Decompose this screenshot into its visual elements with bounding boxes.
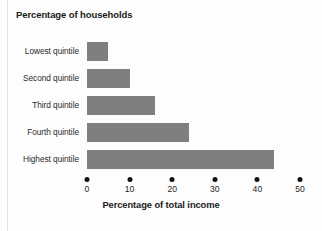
plot-area: Lowest quintileSecond quintileThird quin…: [0, 42, 322, 177]
bar-row: Second quintile: [0, 69, 322, 88]
x-axis-tick-label: 20: [160, 184, 184, 194]
x-axis-tick-label: 10: [118, 184, 142, 194]
x-axis-tick-dot: [170, 177, 175, 182]
bar-second-quintile: [87, 69, 130, 88]
bar-third-quintile: [87, 96, 155, 115]
x-axis-tick-labels: 01020304050: [0, 184, 322, 196]
bar-fourth-quintile: [87, 123, 189, 142]
x-axis-title: Percentage of total income: [0, 199, 322, 210]
x-axis-tick-label: 40: [245, 184, 269, 194]
x-axis-tick-dot: [85, 177, 90, 182]
x-axis-tick-dot: [255, 177, 260, 182]
bar-category-label: Highest quintile: [0, 150, 79, 169]
bar-highest-quintile: [87, 150, 274, 169]
x-axis-tick-dot: [212, 177, 217, 182]
bar-chart-figure: Percentage of households Lowest quintile…: [0, 0, 322, 231]
bar-category-label: Third quintile: [0, 96, 79, 115]
bar-category-label: Second quintile: [0, 69, 79, 88]
bar-lowest-quintile: [87, 42, 108, 61]
bar-row: Third quintile: [0, 96, 322, 115]
x-axis-tick-label: 50: [288, 184, 312, 194]
bar-row: Lowest quintile: [0, 42, 322, 61]
x-axis-tick-label: 30: [203, 184, 227, 194]
chart-title: Percentage of households: [16, 9, 146, 21]
x-axis-tick-label: 0: [75, 184, 99, 194]
bar-category-label: Fourth quintile: [0, 123, 79, 142]
bar-category-label: Lowest quintile: [0, 42, 79, 61]
x-axis-tick-dot: [127, 177, 132, 182]
x-axis-tick-dot: [298, 177, 303, 182]
bar-row: Highest quintile: [0, 150, 322, 169]
bar-row: Fourth quintile: [0, 123, 322, 142]
